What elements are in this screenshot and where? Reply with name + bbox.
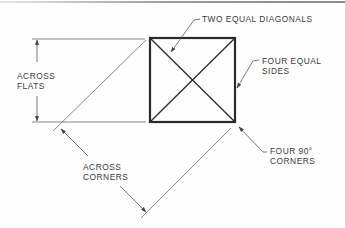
label-across-flats: ACROSS FLATS [17, 71, 55, 91]
label-four-90-corners: FOUR 90° CORNERS [270, 146, 315, 166]
diagonals-leader [171, 19, 200, 52]
label-line: FOUR 90° [270, 146, 315, 156]
label-line: CORNERS [270, 156, 315, 166]
label-line: ACROSS [17, 71, 55, 81]
label-across-corners: ACROSS CORNERS [83, 162, 128, 182]
label-line: FLATS [17, 81, 55, 91]
square-diagram [0, 0, 345, 228]
label-line: ACROSS [83, 162, 128, 172]
corners-arrow-upper [61, 129, 88, 156]
corners-extension-lower [141, 128, 231, 218]
corners90-leader [239, 127, 267, 152]
label-text: TWO EQUAL DIAGONALS [202, 14, 313, 24]
top-rule [0, 1, 345, 3]
label-two-equal-diagonals: TWO EQUAL DIAGONALS [202, 14, 313, 24]
sides-leader [237, 60, 259, 88]
label-four-equal-sides: FOUR EQUAL SIDES [262, 56, 321, 76]
label-line: CORNERS [83, 172, 128, 182]
label-line: SIDES [262, 66, 321, 76]
corners-extension-upper [53, 40, 146, 131]
corners-arrow-lower [120, 186, 146, 212]
diagram-canvas: TWO EQUAL DIAGONALS FOUR EQUAL SIDES ACR… [0, 0, 345, 228]
label-line: FOUR EQUAL [262, 56, 321, 66]
